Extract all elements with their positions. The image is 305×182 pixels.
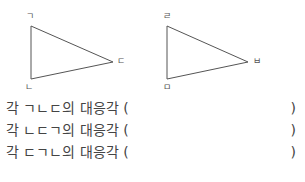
vertex-label-nieun: ㄴ: [25, 83, 33, 92]
question-row-1: 각 ㄱㄴㄷ의 대응각 ( ): [6, 98, 296, 118]
answer-blank-close: ): [291, 120, 296, 140]
answer-blank-close: ): [291, 98, 296, 118]
question-row-2: 각 ㄴㄷㄱ의 대응각 ( ): [6, 120, 296, 140]
question-text: 각 ㄴㄷㄱ의 대응각 (: [6, 120, 129, 140]
triangle-giyeok-nieun-digeut: [31, 26, 113, 79]
triangles-figure: [0, 0, 305, 100]
vertex-label-digeut: ㄷ: [117, 57, 125, 66]
answer-blank-close: ): [291, 142, 296, 162]
triangle-rieul-mieum-bieup: [167, 26, 248, 79]
vertex-label-giyeok: ㄱ: [26, 12, 34, 21]
vertex-label-mieum: ㅁ: [163, 83, 171, 92]
question-row-3: 각 ㄷㄱㄴ의 대응각 ( ): [6, 142, 296, 162]
question-text: 각 ㄱㄴㄷ의 대응각 (: [6, 98, 129, 118]
vertex-label-bieup: ㅂ: [253, 57, 261, 66]
question-text: 각 ㄷㄱㄴ의 대응각 (: [6, 142, 129, 162]
vertex-label-rieul: ㄹ: [163, 12, 171, 21]
